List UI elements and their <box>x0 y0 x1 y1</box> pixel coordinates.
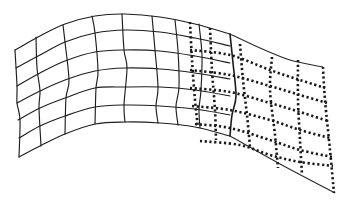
dotted-horizontal-line-3 <box>192 106 330 138</box>
solid-grid-vertical-lines <box>15 14 202 157</box>
dotted-horizontal-line-1 <box>190 70 327 103</box>
solid-horizontal-line-3 <box>17 68 230 103</box>
dotted-vertical-line-5 <box>323 67 334 193</box>
dotted-vertical-line-1 <box>210 28 216 140</box>
dotted-vertical-line-4 <box>298 60 302 175</box>
solid-vertical-line-6 <box>175 20 179 125</box>
solid-grid-thick-boundary-line <box>230 34 236 136</box>
thick-vertical-line-0 <box>230 34 236 136</box>
dotted-vertical-line-3 <box>270 57 278 168</box>
deformed-mesh-diagram <box>0 0 346 204</box>
mesh-svg <box>0 0 346 204</box>
outline-edge-0 <box>230 34 323 67</box>
solid-horizontal-line-6 <box>19 122 230 157</box>
